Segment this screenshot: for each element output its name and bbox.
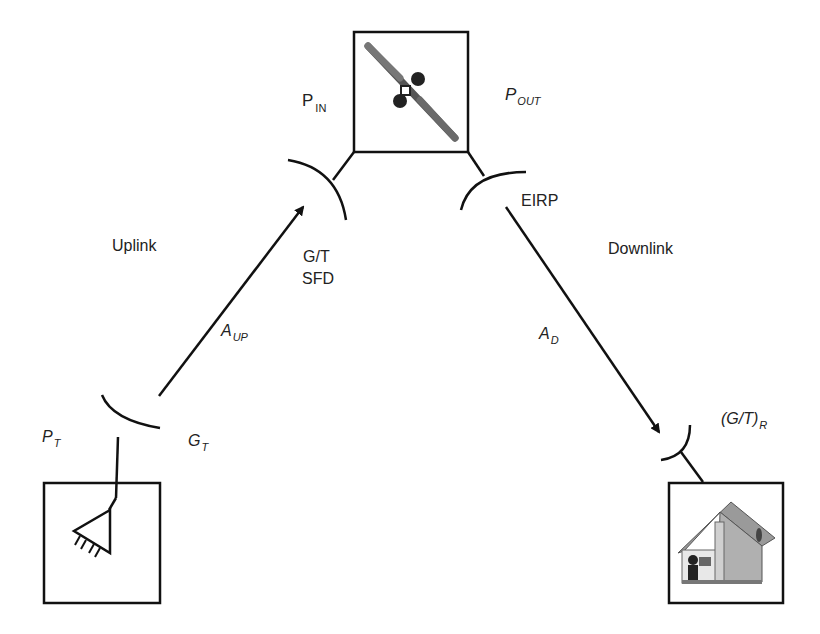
satellite-icon — [368, 46, 455, 138]
transmitter-amplifier-icon — [74, 510, 110, 557]
eirp-label: EIRP — [521, 193, 558, 209]
downlink-attenuation-main: A — [539, 325, 550, 342]
satellite-receive-antenna — [288, 152, 354, 220]
receiver-gt-sub: R — [759, 419, 767, 431]
transmit-gain-sub: T — [201, 441, 208, 453]
transmit-gain-label: GT — [188, 433, 208, 449]
receive-dish — [661, 425, 690, 460]
transmitter-node — [44, 395, 160, 603]
transmit-gain-main: G — [188, 432, 200, 449]
house-icon — [678, 502, 775, 584]
receiver-node — [661, 425, 783, 603]
satellite-transmit-antenna — [461, 152, 526, 210]
receiver-gt-main: (G/T) — [721, 410, 758, 427]
input-power-main: P — [302, 91, 313, 110]
uplink-label: Uplink — [112, 238, 156, 254]
output-power-label: POUT — [505, 86, 541, 103]
output-power-sub: OUT — [517, 95, 540, 107]
transmit-power-label: PT — [42, 429, 60, 445]
sfd-label: SFD — [302, 271, 334, 287]
uplink-attenuation-sub: UP — [233, 331, 248, 343]
input-power-sub: IN — [315, 102, 326, 114]
satellite-node — [354, 32, 468, 152]
transmit-power-main: P — [42, 428, 53, 445]
transmitter-box — [44, 483, 160, 603]
downlink-attenuation-sub: D — [551, 334, 559, 346]
downlink-attenuation-label: AD — [539, 326, 559, 342]
link-budget-diagram — [0, 0, 820, 634]
output-power-main: P — [505, 85, 516, 104]
downlink-label: Downlink — [608, 241, 673, 257]
uplink-attenuation-main: A — [221, 322, 232, 339]
uplink-arrow — [159, 207, 303, 396]
transmit-power-sub: T — [54, 437, 61, 449]
transmit-dish — [102, 395, 160, 428]
receiver-gt-label: (G/T)R — [721, 411, 767, 427]
input-power-label: PIN — [302, 92, 326, 109]
satellite-gt-label: G/T — [303, 249, 330, 265]
uplink-attenuation-label: AUP — [221, 323, 248, 339]
